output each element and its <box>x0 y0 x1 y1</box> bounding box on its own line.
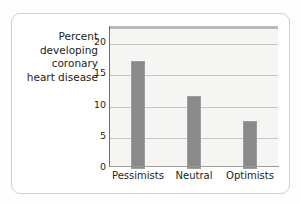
plot-area <box>110 26 278 166</box>
x-tick-label-optimists: Optimists <box>222 169 278 185</box>
y-tick-label: 5 <box>86 129 106 140</box>
y-axis-line <box>109 26 110 167</box>
x-tick-label-neutral: Neutral <box>166 169 222 185</box>
bar-neutral <box>187 96 201 169</box>
bar-optimists <box>243 121 257 169</box>
bar-pessimists <box>131 61 145 169</box>
y-tick-label: 10 <box>86 98 106 109</box>
y-tick-label: 15 <box>86 67 106 78</box>
x-axis-line <box>109 166 279 167</box>
y-tick-label-group: 05101520 <box>82 26 106 166</box>
y-tick-label: 20 <box>86 36 106 47</box>
chart-figure: Percent developing coronary heart diseas… <box>0 0 301 204</box>
x-tick-label-pessimists: Pessimists <box>110 169 166 185</box>
x-tick-label-group: PessimistsNeutralOptimists <box>110 169 278 185</box>
gridline <box>110 44 278 45</box>
y-tick-label: 0 <box>86 161 106 172</box>
plot-inner <box>110 29 278 166</box>
